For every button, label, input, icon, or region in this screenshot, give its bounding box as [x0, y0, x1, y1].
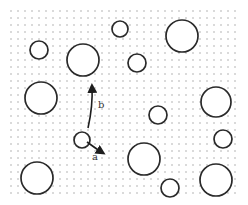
grid-dot [122, 185, 123, 186]
grid-dot [185, 87, 186, 88]
grid-dot [206, 31, 207, 32]
grid-dot [164, 45, 165, 46]
grid-dot [94, 10, 95, 11]
grid-dot [234, 73, 235, 74]
grid-dot [17, 157, 18, 158]
grid-dot [164, 24, 165, 25]
grid-dot [143, 185, 144, 186]
grid-dot [178, 17, 179, 18]
grid-dot [150, 52, 151, 53]
grid-dot [80, 31, 81, 32]
grid-dot [52, 136, 53, 137]
grid-dot [24, 17, 25, 18]
grid-dot [10, 87, 11, 88]
grid-dot [66, 101, 67, 102]
grid-dot [122, 59, 123, 60]
grid-dot [24, 157, 25, 158]
grid-dot [45, 66, 46, 67]
grid-dot [17, 94, 18, 95]
grid-dot [178, 10, 179, 11]
grid-dot [213, 59, 214, 60]
grid-dot [87, 80, 88, 81]
grid-dot [94, 143, 95, 144]
grid-dot [10, 108, 11, 109]
grid-dot [164, 122, 165, 123]
grid-dot [199, 108, 200, 109]
grid-dot [164, 10, 165, 11]
grid-dot [101, 157, 102, 158]
grid-dot [115, 157, 116, 158]
grid-dot [143, 17, 144, 18]
grid-dot [227, 164, 228, 165]
grid-dot [185, 171, 186, 172]
grid-dot [234, 38, 235, 39]
grid-dot [220, 45, 221, 46]
grid-dot [171, 101, 172, 102]
grid-dot [129, 129, 130, 130]
grid-dot [220, 122, 221, 123]
grid-dot [31, 115, 32, 116]
grid-dot [171, 10, 172, 11]
grid-dot [38, 38, 39, 39]
grid-dot [136, 136, 137, 137]
grid-dot [129, 38, 130, 39]
grid-dot [122, 171, 123, 172]
grid-dot [192, 87, 193, 88]
grid-dot [150, 178, 151, 179]
grid-dot [66, 171, 67, 172]
grid-dot [38, 24, 39, 25]
grid-dot [115, 10, 116, 11]
grid-dot [10, 136, 11, 137]
grid-dot [234, 10, 235, 11]
grid-dot [66, 143, 67, 144]
grid-dot [87, 178, 88, 179]
grid-dot [101, 129, 102, 130]
grid-dot [122, 38, 123, 39]
grid-dot [66, 94, 67, 95]
grid-dot [38, 143, 39, 144]
grid-dot [101, 185, 102, 186]
grid-dot [122, 164, 123, 165]
grid-dot [24, 59, 25, 60]
grid-dot [115, 17, 116, 18]
grid-dot [164, 94, 165, 95]
grid-dot [108, 157, 109, 158]
grid-dot [31, 136, 32, 137]
grid-dot [234, 66, 235, 67]
grid-dot [150, 192, 151, 193]
grid-dot [234, 101, 235, 102]
grid-dot [108, 80, 109, 81]
grid-dot [164, 150, 165, 151]
grid-dot [171, 150, 172, 151]
grid-dot [213, 157, 214, 158]
grid-dot [192, 192, 193, 193]
grid-dot [108, 73, 109, 74]
grid-dot [24, 136, 25, 137]
grid-dot [94, 101, 95, 102]
grid-dot [227, 157, 228, 158]
grid-dot [129, 87, 130, 88]
grid-dot [150, 80, 151, 81]
grid-dot [157, 52, 158, 53]
grid-dot [94, 24, 95, 25]
grid-dot [73, 10, 74, 11]
grid-dot [136, 80, 137, 81]
grid-dot [52, 164, 53, 165]
grid-dot [108, 150, 109, 151]
grid-dot [199, 52, 200, 53]
grid-dot [227, 45, 228, 46]
grid-dot [164, 171, 165, 172]
grid-dot [185, 59, 186, 60]
grid-dot [10, 122, 11, 123]
grid-dot [150, 122, 151, 123]
grid-dot [171, 122, 172, 123]
grid-dot [192, 164, 193, 165]
grid-dot [17, 143, 18, 144]
grid-dot [66, 129, 67, 130]
grid-dot [52, 73, 53, 74]
grid-dot [10, 94, 11, 95]
grid-dot [136, 94, 137, 95]
grid-dot [52, 45, 53, 46]
grid-dot [80, 192, 81, 193]
grid-dot [199, 94, 200, 95]
